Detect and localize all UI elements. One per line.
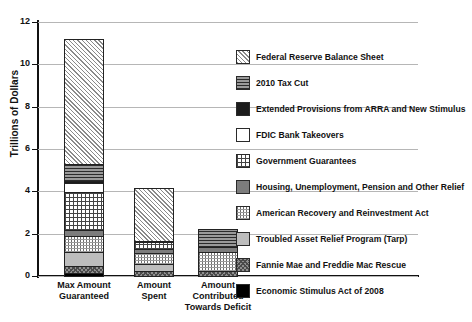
y-tick: 0 [0,271,30,281]
legend-item[interactable]: Housing, Unemployment, Pension and Other… [236,174,470,200]
legend-item[interactable]: Extended Provisions from ARRA and New St… [236,96,470,122]
bar-segment[interactable] [198,271,238,277]
y-tick: 2 [0,229,30,239]
legend-label: American Recovery and Reinvestment Act [256,208,429,218]
y-tick: 10 [0,59,30,69]
y-tick: 4 [0,186,30,196]
legend-swatch-icon [236,180,250,194]
y-tick-mark [32,22,37,23]
bar-segment[interactable] [64,192,104,231]
bar-segment[interactable] [64,39,104,165]
legend-label: Fannie Mae and Freddie Mac Rescue [256,260,406,270]
legend-label: FDIC Bank Takeovers [256,130,344,140]
legend-item[interactable]: American Recovery and Reinvestment Act [236,200,470,226]
y-tick-label: 10 [0,59,30,68]
bar-2[interactable] [134,188,174,276]
bar-segment[interactable] [198,229,238,248]
bar-1[interactable] [64,39,104,276]
legend-label: Extended Provisions from ARRA and New St… [256,104,465,114]
legend-label: Troubled Asset Relief Program (Tarp) [256,234,407,244]
y-tick-mark [32,64,37,65]
y-tick-mark [32,276,37,277]
legend-swatch-icon [236,50,250,64]
y-tick: 6 [0,144,30,154]
bar-segment[interactable] [134,188,174,242]
legend-item[interactable]: 2010 Tax Cut [236,70,470,96]
legend-swatch-icon [236,284,250,298]
bar-3[interactable] [198,229,238,276]
legend-swatch-icon [236,154,250,168]
bar-segment[interactable] [64,252,104,267]
legend-item[interactable]: FDIC Bank Takeovers [236,122,470,148]
legend-swatch-icon [236,232,250,246]
y-tick-label: 4 [0,186,30,195]
y-tick: 8 [0,102,30,112]
y-tick-label: 2 [0,229,30,238]
legend-swatch-icon [236,206,250,220]
y-tick-label: 8 [0,102,30,111]
y-tick-mark [32,107,37,108]
chart-legend: Federal Reserve Balance Sheet2010 Tax Cu… [236,44,470,304]
legend-label: Economic Stimulus Act of 2008 [256,286,384,296]
legend-swatch-icon [236,128,250,142]
legend-label: Federal Reserve Balance Sheet [256,52,384,62]
legend-item[interactable]: Fannie Mae and Freddie Mac Rescue [236,252,470,278]
bar-segment[interactable] [64,164,104,182]
y-tick-mark [32,234,37,235]
stacked-bar-chart: Trillions of Dollars 024681012 Max Amoun… [0,0,472,322]
y-tick-mark [32,149,37,150]
y-tick-mark [32,191,37,192]
bar-segment[interactable] [64,273,104,277]
y-tick-label: 0 [0,271,30,280]
legend-item[interactable]: Federal Reserve Balance Sheet [236,44,470,70]
y-tick: 12 [0,17,30,27]
bar-segment[interactable] [64,236,104,253]
legend-swatch-icon [236,76,250,90]
legend-swatch-icon [236,102,250,116]
bar-segment[interactable] [198,252,238,272]
legend-label: Government Guarantees [256,156,356,166]
legend-item[interactable]: Economic Stimulus Act of 2008 [236,278,470,304]
y-tick-label: 6 [0,144,30,153]
legend-item[interactable]: Government Guarantees [236,148,470,174]
legend-item[interactable]: Troubled Asset Relief Program (Tarp) [236,226,470,252]
legend-label: Housing, Unemployment, Pension and Other… [256,182,464,192]
y-tick-label: 12 [0,17,30,26]
legend-swatch-icon [236,258,250,272]
legend-label: 2010 Tax Cut [256,78,308,88]
bar-segment[interactable] [134,271,174,277]
